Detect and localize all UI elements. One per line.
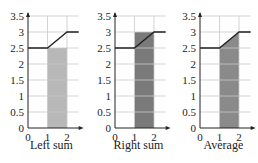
y-tick-label: 3 [106, 26, 112, 38]
y-tick-label: 3 [19, 26, 25, 38]
y-tick-label: 0 [191, 122, 197, 134]
y-tick-label: 0.5 [10, 106, 24, 118]
x-axis-arrow-icon [79, 126, 84, 130]
y-tick-label: 1 [106, 90, 112, 102]
y-tick-label: 3.5 [182, 10, 196, 22]
y-tick-label: 3 [191, 26, 197, 38]
y-tick-label: 2.5 [182, 42, 196, 54]
y-tick-label: 2 [19, 58, 25, 70]
chart-caption: Right sum [114, 138, 164, 152]
y-tick-label: 3.5 [10, 10, 24, 22]
y-tick-label: 2.5 [97, 42, 111, 54]
chart-caption: Average [204, 138, 244, 152]
y-tick-label: 1.5 [97, 74, 111, 86]
shaded-area [48, 48, 68, 128]
y-axis-arrow-icon [26, 12, 30, 17]
chart-panel-2: 00.511.522.533.5012Right sum [97, 10, 170, 152]
y-tick-label: 3.5 [97, 10, 111, 22]
y-tick-label: 0 [106, 122, 112, 134]
x-axis-arrow-icon [251, 126, 256, 130]
chart-panel-1: 00.511.522.533.5012Left sum [10, 10, 83, 152]
y-tick-label: 0.5 [97, 106, 111, 118]
y-tick-label: 2 [191, 58, 197, 70]
function-curve [28, 32, 79, 48]
y-tick-label: 2.5 [10, 42, 24, 54]
y-tick-label: 1 [191, 90, 197, 102]
y-tick-label: 0.5 [182, 106, 196, 118]
y-tick-label: 0 [19, 122, 25, 134]
chart-panel-3: 00.511.522.533.5012Average [182, 10, 255, 152]
x-axis-arrow-icon [166, 126, 171, 130]
chart-caption: Left sum [30, 138, 74, 152]
x-tick-label: 0 [197, 131, 203, 143]
figure: 00.511.522.533.5012Left sum00.511.522.53… [0, 0, 258, 163]
y-axis-arrow-icon [113, 12, 117, 17]
y-tick-label: 1.5 [10, 74, 24, 86]
y-axis-arrow-icon [198, 12, 202, 17]
y-tick-label: 2 [106, 58, 112, 70]
y-tick-label: 1.5 [182, 74, 196, 86]
y-tick-label: 1 [19, 90, 25, 102]
